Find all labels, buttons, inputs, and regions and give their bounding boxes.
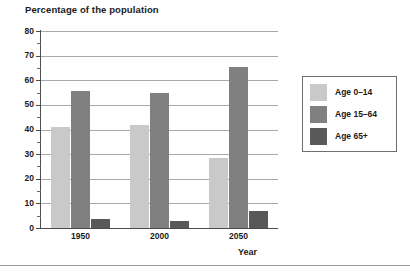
bottom-divider [0,265,410,266]
bar [249,211,268,228]
bar [130,125,149,228]
y-tick-minor [37,117,41,118]
legend-swatch [310,84,327,101]
y-tick-minor [37,43,41,44]
y-tick-minor [37,216,41,217]
legend-swatch [310,128,327,145]
y-tick-label: 20 [0,174,34,183]
bar [51,127,70,228]
y-tick-major [36,105,41,106]
legend-label: Age 15–64 [335,110,377,119]
y-tick-label: 60 [0,76,34,85]
plot-area [41,31,278,228]
bar [170,221,189,228]
y-tick-label: 70 [0,51,34,60]
legend-label: Age 65+ [335,132,368,141]
legend-swatch [310,106,327,123]
y-tick-label: 10 [0,199,34,208]
x-tick-label: 2050 [209,232,269,241]
x-tick-label: 1950 [51,232,111,241]
y-tick-minor [37,68,41,69]
y-tick-label: 80 [0,27,34,36]
x-tick-label: 2000 [130,232,190,241]
y-tick-label: 50 [0,100,34,109]
y-tick-minor [37,142,41,143]
chart-legend: Age 0–14Age 15–64Age 65+ [302,76,397,152]
y-tick-major [36,179,41,180]
y-tick-minor [37,93,41,94]
y-tick-major [36,154,41,155]
y-tick-major [36,228,41,229]
bar [229,67,248,228]
x-axis-line [40,228,278,229]
legend-item: Age 0–14 [310,83,372,101]
legend-item: Age 65+ [310,127,368,145]
gridline [41,56,278,57]
y-tick-major [36,31,41,32]
chart-title: Percentage of the population [25,4,159,15]
bar [91,219,110,228]
y-axis-labels: 01020304050607080 [0,0,34,274]
y-tick-major [36,203,41,204]
gridline [41,31,278,32]
bar [71,91,90,228]
legend-item: Age 15–64 [310,105,377,123]
y-tick-major [36,56,41,57]
y-tick-minor [37,166,41,167]
x-axis-title: Year [238,247,257,257]
y-tick-label: 40 [0,125,34,134]
legend-label: Age 0–14 [335,88,372,97]
y-tick-minor [37,191,41,192]
y-tick-label: 30 [0,150,34,159]
y-tick-major [36,130,41,131]
y-tick-label: 0 [0,224,34,233]
y-tick-major [36,80,41,81]
bar [150,93,169,228]
bar [209,158,228,228]
